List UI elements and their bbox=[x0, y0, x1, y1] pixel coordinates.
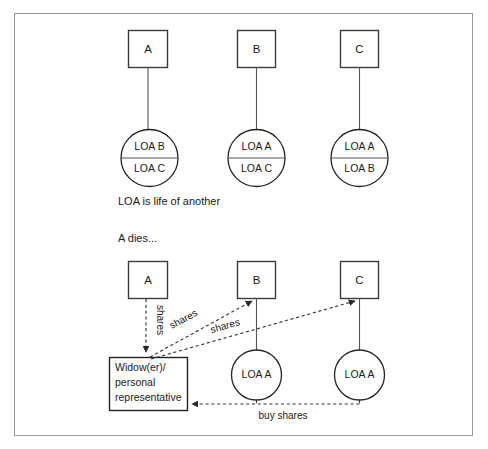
edge-label-buy-shares: buy shares bbox=[259, 410, 308, 421]
top-policy-bottom-a: LOA C bbox=[134, 162, 165, 174]
top-node-label-b: B bbox=[253, 43, 261, 55]
edge-label-estate-to-b: shares bbox=[168, 307, 200, 331]
bottom-policy-label-b: LOA A bbox=[242, 368, 272, 380]
top-policy-bottom-b: LOA C bbox=[241, 162, 272, 174]
bottom-node-label-c: C bbox=[355, 274, 363, 286]
caption-loa-definition: LOA is life of another bbox=[118, 195, 220, 207]
top-node-label-a: A bbox=[144, 43, 152, 55]
bottom-node-label-a: A bbox=[144, 274, 152, 286]
diagram-canvas: A LOA B LOA C B LOA A LOA C C LOA A LOA … bbox=[0, 0, 488, 449]
top-policy-top-a: LOA B bbox=[134, 140, 164, 152]
bottom-policy-label-c: LOA A bbox=[345, 368, 375, 380]
diagram-svg: A LOA B LOA C B LOA A LOA C C LOA A LOA … bbox=[0, 0, 488, 449]
estate-box-line2: personal bbox=[115, 376, 155, 388]
edge-label-estate-to-c: shares bbox=[209, 316, 241, 335]
top-policy-bottom-c: LOA B bbox=[344, 162, 374, 174]
bottom-node-label-b: B bbox=[253, 274, 261, 286]
top-policy-top-c: LOA A bbox=[345, 140, 375, 152]
edge-label-a-to-estate: shares bbox=[155, 305, 166, 335]
top-node-label-c: C bbox=[355, 43, 363, 55]
estate-box-line3: representative bbox=[115, 391, 182, 403]
top-policy-top-b: LOA A bbox=[242, 140, 272, 152]
estate-box-line1: Widow(er)/ bbox=[115, 361, 166, 373]
caption-a-dies: A dies... bbox=[118, 232, 157, 244]
